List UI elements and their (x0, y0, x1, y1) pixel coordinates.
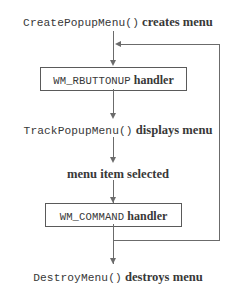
edge-track-to-selected-arrowhead (110, 157, 116, 163)
edge-loop-right-rail (219, 44, 220, 241)
node-track-popup-menu-code: TrackPopupMenu() (24, 125, 133, 137)
node-destroy-menu-code: DestroyMenu() (33, 272, 122, 284)
node-wm-rbuttonup-handler-code: WM_RBUTTONUP (53, 75, 131, 87)
node-wm-command-handler-label: handler (124, 209, 167, 223)
node-menu-item-selected-label: menu item selected (67, 167, 169, 181)
node-wm-rbuttonup-handler: WM_RBUTTONUP handler (40, 67, 187, 91)
node-wm-rbuttonup-handler-label: handler (131, 73, 174, 87)
node-menu-item-selected: menu item selected (0, 165, 236, 181)
node-track-popup-menu: TrackPopupMenu() displays menu (0, 121, 236, 137)
edge-create-to-rbuttonup-arrowhead (110, 60, 116, 66)
edge-loop-arrowhead (115, 41, 121, 47)
edge-rbuttonup-to-track-arrowhead (110, 113, 116, 119)
node-destroy-menu-label: destroys menu (122, 270, 203, 284)
node-wm-command-handler-code: WM_COMMAND (60, 211, 125, 223)
edge-create-to-rbuttonup-line (113, 31, 114, 62)
node-create-popup-menu-code: CreatePopupMenu() (23, 17, 139, 29)
edge-loop-bottom-segment (113, 240, 220, 241)
node-destroy-menu: DestroyMenu() destroys menu (0, 268, 236, 284)
node-track-popup-menu-label: displays menu (133, 123, 213, 137)
edge-command-to-destroy-arrowhead (110, 258, 116, 264)
node-create-popup-menu-label: creates menu (139, 15, 213, 29)
node-create-popup-menu: CreatePopupMenu() creates menu (0, 13, 236, 29)
edge-loop-top-segment (120, 44, 220, 45)
flowchart-diagram: CreatePopupMenu() creates menu WM_RBUTTO… (0, 0, 236, 291)
edge-rbuttonup-to-track-line (113, 89, 114, 115)
